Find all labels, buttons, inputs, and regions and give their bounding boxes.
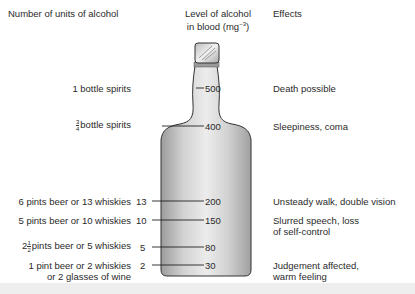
drinks-label-500: 1 bottle spirits bbox=[72, 83, 131, 94]
units-10: 10 bbox=[136, 215, 147, 226]
units-13: 13 bbox=[136, 196, 147, 207]
effect-200: Unsteady walk, double vision bbox=[273, 196, 396, 207]
effect-150: Slurred speech, loss of self-control bbox=[273, 215, 359, 237]
fraction-three-quarters: 34 bbox=[76, 119, 79, 132]
level-200: 200 bbox=[205, 196, 221, 207]
drinks-label-80: 212pints beer or 5 whiskies bbox=[22, 240, 131, 253]
effect-400: Sleepiness, coma bbox=[273, 121, 348, 132]
level-30: 30 bbox=[205, 260, 216, 271]
level-80: 80 bbox=[205, 242, 216, 253]
bottle-cap bbox=[195, 43, 219, 63]
header-units: Number of units of alcohol bbox=[8, 8, 118, 19]
level-500: 500 bbox=[205, 83, 221, 94]
drinks-label-30: 1 pint beer or 2 whiskies or 2 glasses o… bbox=[29, 260, 131, 282]
level-400: 400 bbox=[205, 121, 221, 132]
header-level: Level of alcohol in blood (mg−3) bbox=[168, 8, 268, 32]
units-2: 2 bbox=[140, 260, 145, 271]
units-5: 5 bbox=[140, 242, 145, 253]
drinks-label-150: 5 pints beer or 10 whiskies bbox=[19, 215, 131, 226]
header-level-line1: Level of alcohol bbox=[168, 8, 268, 19]
drinks-label-200: 6 pints beer or 13 whiskies bbox=[19, 196, 131, 207]
effect-30: Judgement affected, warm feeling bbox=[273, 260, 359, 282]
fraction-one-half: 12 bbox=[27, 240, 30, 253]
header-effects: Effects bbox=[273, 8, 302, 19]
drinks-label-400: 34bottle spirits bbox=[76, 119, 131, 132]
effect-500: Death possible bbox=[273, 83, 336, 94]
level-150: 150 bbox=[205, 215, 221, 226]
header-level-line2: in blood (mg−3) bbox=[168, 19, 268, 32]
